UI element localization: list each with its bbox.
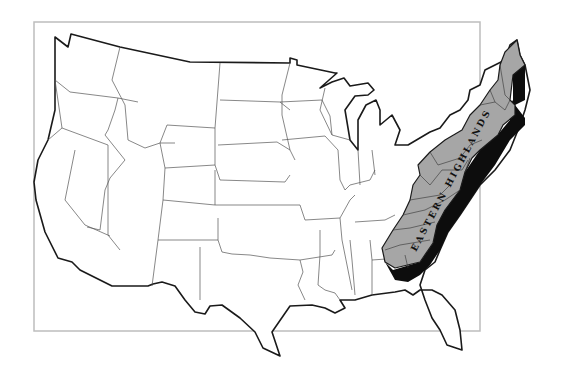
us-map: EASTERN HIGHLANDS [0,0,562,376]
